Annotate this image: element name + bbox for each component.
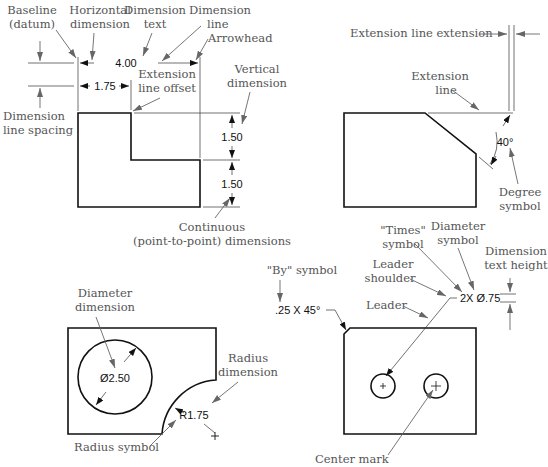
dim-text-partial: 1.75: [94, 80, 115, 92]
label-ext-line-extension: Extension line extension: [350, 26, 493, 40]
l-shaped-part-outline: [78, 113, 200, 207]
label-baseline-2: (datum): [9, 17, 55, 31]
label-dimension-text-1: Dimension: [124, 3, 187, 17]
label-dim-line-spacing-1: Dimension: [3, 109, 66, 123]
label-degree-symbol-2: symbol: [499, 199, 541, 213]
center-mark-icon-right: [431, 381, 441, 391]
label-leader-shoulder-2: shoulder: [365, 271, 416, 285]
label-dim-text-height-2: text height: [484, 258, 548, 272]
label-diameter-symbol-2: symbol: [437, 233, 479, 247]
dim-text-holes: 2X Ø.75: [460, 292, 500, 304]
chamfered-part-outline: [344, 113, 476, 207]
label-dimension-text-2: text: [144, 17, 167, 31]
label-dim-text-height-1: Dimension: [485, 244, 548, 258]
label-continuous-2: (point-to-point) dimensions: [133, 234, 291, 248]
label-baseline-1: Baseline: [7, 3, 57, 17]
dim-text-lower-v: 1.50: [221, 178, 242, 190]
dim-text-chamfer: .25 X 45°: [275, 304, 320, 316]
label-times-symbol-1: "Times": [380, 223, 426, 237]
label-by-symbol: "By" symbol: [267, 263, 338, 277]
label-degree-symbol-1: Degree: [499, 185, 542, 199]
label-dimension-line-1: Dimension: [189, 3, 252, 17]
label-times-symbol-2: symbol: [382, 237, 424, 251]
label-ext-line-offset-2: line offset: [138, 81, 196, 95]
panel-diameter-radius: Ø2.50 R1.75 Diameter dimension Radius di…: [68, 286, 279, 454]
label-vertical-dimension-1: Vertical: [234, 62, 280, 76]
dimensioning-diagram: 4.00 1.75 1.50 1.50 Baseline (datum) Hor…: [0, 0, 548, 467]
label-horizontal-dimension-2: dimension: [70, 17, 131, 31]
dim-text-upper-v: 1.50: [221, 131, 242, 143]
chamfered-plate-outline: [344, 328, 476, 434]
label-radius-dimension-2: dimension: [218, 365, 279, 379]
label-ext-line-offset-1: Extension: [138, 67, 196, 81]
dim-text-diameter: Ø2.50: [100, 372, 130, 384]
label-diameter-symbol-1: Diameter: [431, 219, 486, 233]
label-center-mark: Center mark: [315, 452, 390, 466]
label-arrowhead: Arrowhead: [207, 31, 273, 45]
label-diameter-dimension-2: dimension: [75, 300, 136, 314]
label-dimension-line-2: line: [207, 17, 229, 31]
center-mark-icon-left: [380, 383, 386, 389]
label-horizontal-dimension-1: Horizontal: [69, 3, 131, 17]
label-radius-dimension-1: Radius: [228, 351, 268, 365]
label-radius-symbol: Radius symbol: [74, 440, 159, 454]
label-leader: Leader: [366, 298, 407, 312]
radius-center-mark-icon: [211, 432, 219, 440]
label-leader-shoulder-1: Leader: [373, 257, 414, 271]
label-extension-line-1: Extension: [411, 69, 469, 83]
dim-text-radius: R1.75: [179, 409, 208, 421]
panel-linear-dimensions: 4.00 1.75 1.50 1.50 Baseline (datum) Hor…: [3, 3, 291, 248]
panel-notes-leaders: .25 X 45° 2X Ø.75 Dimension text height …: [267, 219, 548, 466]
label-dim-line-spacing-2: line spacing: [3, 123, 74, 137]
label-extension-line-2: line: [435, 83, 457, 97]
label-diameter-dimension-1: Diameter: [78, 286, 133, 300]
label-vertical-dimension-2: dimension: [227, 76, 288, 90]
dim-text-overall: 4.00: [115, 57, 136, 69]
label-continuous-1: Continuous: [179, 220, 246, 234]
panel-angular-dimension: 40° Extension line extension Extension l…: [344, 25, 541, 213]
dim-text-angle: 40°: [497, 136, 514, 148]
